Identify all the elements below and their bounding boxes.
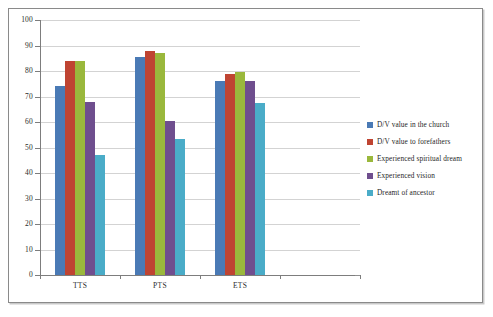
bar <box>95 155 105 275</box>
legend-item-label: D/V value to forefathers <box>377 138 450 145</box>
bar <box>175 139 185 275</box>
legend-item[interactable]: Dreamt of ancestor <box>367 184 485 201</box>
bar <box>75 61 85 275</box>
x-axis-tick-mark <box>360 275 361 279</box>
chart-figure: 0102030405060708090100 TTSPTSETS D/V val… <box>0 0 493 317</box>
bar <box>55 86 65 275</box>
y-axis-tick-label: 10 <box>7 246 33 254</box>
bar <box>225 74 235 275</box>
legend-item[interactable]: D/V value in the church <box>367 116 485 133</box>
bar <box>255 103 265 275</box>
bar-group <box>55 20 105 275</box>
x-axis-tick-mark <box>120 275 121 279</box>
bars-layer <box>40 20 360 275</box>
bar <box>85 102 95 275</box>
legend-swatch-icon <box>367 190 373 196</box>
x-axis-category-label: ETS <box>200 281 280 290</box>
y-axis-labels: 0102030405060708090100 <box>3 0 33 317</box>
y-axis-tick-label: 100 <box>7 16 33 24</box>
legend-item[interactable]: Experienced vision <box>367 167 485 184</box>
legend-item-label: Experienced spiritual dream <box>377 155 462 162</box>
bar <box>155 53 165 275</box>
x-axis-labels: TTSPTSETS <box>40 281 360 295</box>
x-axis-tick-mark <box>280 275 281 279</box>
legend-swatch-icon <box>367 139 373 145</box>
bar <box>215 81 225 275</box>
y-axis-tick-label: 50 <box>7 144 33 152</box>
legend-item[interactable]: D/V value to forefathers <box>367 133 485 150</box>
y-axis-tick-label: 20 <box>7 220 33 228</box>
y-axis-tick-label: 0 <box>7 271 33 279</box>
bar <box>145 51 155 275</box>
x-axis-category-label: PTS <box>120 281 200 290</box>
bar <box>135 57 145 275</box>
y-axis-tick-label: 60 <box>7 118 33 126</box>
y-axis-tick-label: 40 <box>7 169 33 177</box>
x-axis-category-label: TTS <box>40 281 120 290</box>
bar <box>235 72 245 275</box>
legend-item[interactable]: Experienced spiritual dream <box>367 150 485 167</box>
y-axis-tick-label: 70 <box>7 93 33 101</box>
chart-legend: D/V value in the churchD/V value to fore… <box>367 116 485 201</box>
y-axis-tick-label: 80 <box>7 67 33 75</box>
y-axis-tick-label: 30 <box>7 195 33 203</box>
legend-swatch-icon <box>367 173 373 179</box>
legend-item-label: D/V value in the church <box>377 121 449 128</box>
legend-swatch-icon <box>367 156 373 162</box>
bar <box>65 61 75 275</box>
x-axis-tick-mark <box>200 275 201 279</box>
legend-item-label: Dreamt of ancestor <box>377 189 435 196</box>
bar <box>245 81 255 275</box>
legend-item-label: Experienced vision <box>377 172 435 179</box>
bar <box>165 121 175 275</box>
bar-group <box>135 20 185 275</box>
y-axis-tick-label: 90 <box>7 42 33 50</box>
legend-swatch-icon <box>367 122 373 128</box>
bar-group <box>215 20 265 275</box>
x-axis-tick-mark <box>40 275 41 279</box>
x-axis-line <box>40 275 355 276</box>
